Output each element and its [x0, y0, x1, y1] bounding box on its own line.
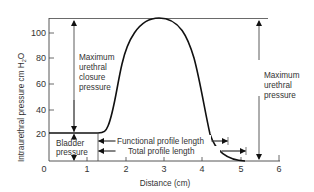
total-length-label: Total profile length	[128, 147, 195, 156]
y-axis-title: Intraurethral pressure cm H2O	[17, 53, 27, 162]
x-axis-title: Distance (cm)	[140, 179, 191, 188]
functional-length-label: Functional profile length	[117, 137, 204, 146]
max-pressure-label-1: Maximum	[264, 71, 300, 80]
y-tick-100: 100	[31, 28, 46, 38]
bladder-label-1: Bladder	[56, 139, 84, 148]
x-tick-labels: 0 1 2 3 4 5 6	[41, 164, 281, 174]
closure-label-3: closure	[79, 73, 106, 82]
y-tick-60: 60	[36, 79, 46, 89]
max-pressure-label-3: pressure	[264, 91, 296, 100]
max-pressure-label-2: urethral	[264, 81, 292, 90]
y-tick-80: 80	[36, 53, 46, 63]
closure-label-4: pressure	[79, 83, 111, 92]
y-tick-20: 20	[36, 129, 46, 139]
x-tick-2: 2	[123, 164, 128, 174]
closure-label-2: urethral	[79, 63, 107, 72]
x-tick-4: 4	[199, 164, 204, 174]
y-tick-40: 40	[36, 105, 46, 115]
x-tick-6: 6	[276, 164, 281, 174]
x-tick-3: 3	[161, 164, 166, 174]
x-tick-0: 0	[41, 164, 46, 174]
y-tick-labels: 100 80 60 40 20	[31, 28, 46, 139]
x-tick-1: 1	[84, 164, 89, 174]
x-tick-5: 5	[238, 164, 243, 174]
pressure-profile-chart: 0 1 2 3 4 5 6 100 80 60 40 20 Distance (…	[0, 0, 314, 192]
closure-label-1: Maximum	[79, 53, 115, 62]
bladder-label-2: pressure	[56, 148, 88, 157]
